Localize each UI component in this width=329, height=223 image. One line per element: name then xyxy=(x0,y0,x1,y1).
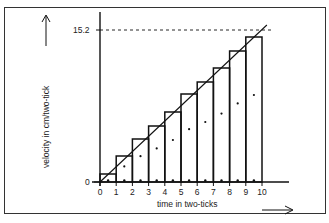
x-tick-label: 0 xyxy=(98,187,103,197)
x-tick-label: 4 xyxy=(162,187,167,197)
x-tick-label: 5 xyxy=(179,187,184,197)
velocity-bar xyxy=(181,94,197,182)
x-tick-label: 10 xyxy=(257,187,267,197)
tape-dot xyxy=(253,94,255,96)
velocity-bar xyxy=(213,68,229,182)
tape-dot xyxy=(172,139,174,141)
tape-dot xyxy=(156,147,158,149)
velocity-bar xyxy=(246,37,262,182)
velocity-bar xyxy=(165,112,181,182)
y-tick-label-zero: 0 xyxy=(85,177,90,187)
x-tick-label: 7 xyxy=(211,187,216,197)
velocity-bar xyxy=(230,51,246,182)
velocity-bar xyxy=(116,156,132,182)
y-tick-label-max: 15.2 xyxy=(73,25,90,35)
x-tick-label: 9 xyxy=(243,187,248,197)
tape-dot xyxy=(220,113,222,115)
x-tick-labels: 012345678910 xyxy=(98,187,267,197)
y-axis-arrow-icon xyxy=(42,15,50,46)
tape-dot xyxy=(237,102,239,104)
x-tick-label: 6 xyxy=(195,187,200,197)
tape-dot xyxy=(204,121,206,123)
x-tick-label: 1 xyxy=(114,187,119,197)
x-tick-label: 2 xyxy=(130,187,135,197)
x-axis-arrow-icon xyxy=(262,206,293,214)
velocity-bar xyxy=(197,82,213,182)
velocity-time-graph: 15.2 0 012345678910 time in two-ticks ve… xyxy=(0,0,329,223)
tape-dot xyxy=(123,165,125,167)
velocity-bar xyxy=(132,139,148,182)
x-tick-label: 8 xyxy=(227,187,232,197)
x-axis-label: time in two-ticks xyxy=(157,199,217,209)
y-axis-label: velocity in cm/two-tick xyxy=(41,85,51,168)
tape-dot xyxy=(188,128,190,130)
velocity-bars xyxy=(100,37,262,182)
best-fit-line xyxy=(100,25,267,182)
tape-dot xyxy=(139,155,141,157)
x-tick-label: 3 xyxy=(146,187,151,197)
